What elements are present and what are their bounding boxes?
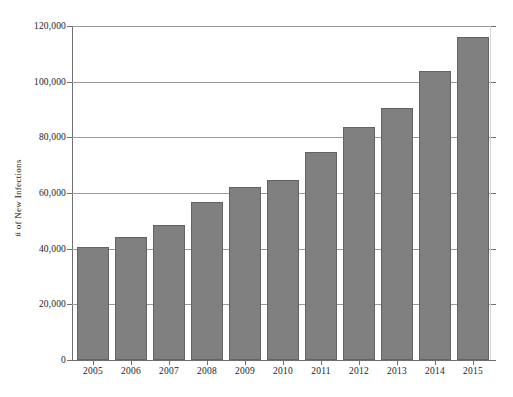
- x-axis-tick-label: 2011: [311, 366, 330, 376]
- bar-chart: # of New Infections 020,00040,00060,0008…: [0, 0, 513, 397]
- y-axis-tick-mark-right: [491, 249, 496, 250]
- y-axis-tick-mark: [67, 360, 72, 361]
- x-axis-tick-mark: [207, 361, 208, 365]
- x-axis-tick-mark: [397, 361, 398, 365]
- x-axis-tick-mark: [473, 361, 474, 365]
- y-axis-tick-mark-right: [491, 82, 496, 83]
- bar: [191, 202, 223, 360]
- y-axis-tick-mark-right: [491, 137, 496, 138]
- x-axis-tick-label: 2013: [387, 366, 407, 376]
- x-axis-tick-label: 2009: [235, 366, 255, 376]
- bar: [77, 247, 109, 360]
- y-axis-tick-mark: [67, 249, 72, 250]
- x-axis-tick-label: 2012: [349, 366, 369, 376]
- x-axis-tick-mark: [359, 361, 360, 365]
- x-axis-tick-label: 2008: [197, 366, 217, 376]
- y-axis-tick-labels: 020,00040,00060,00080,000100,000120,000: [0, 0, 66, 397]
- x-axis-tick-label: 2005: [83, 366, 103, 376]
- y-axis-tick-mark-right: [491, 304, 496, 305]
- y-axis-tick-label: 80,000: [39, 132, 66, 142]
- gridline: [72, 26, 490, 27]
- y-axis-tick-label: 0: [61, 355, 66, 365]
- bar: [267, 180, 299, 360]
- plot-area: [72, 26, 490, 360]
- y-axis-tick-mark: [67, 26, 72, 27]
- bar: [381, 108, 413, 360]
- x-axis-tick-mark: [131, 361, 132, 365]
- x-axis-tick-mark: [93, 361, 94, 365]
- x-axis-tick-label: 2014: [425, 366, 445, 376]
- y-axis-tick-mark-right: [491, 26, 496, 27]
- y-axis-tick-label: 40,000: [39, 244, 66, 254]
- x-axis-tick-mark: [321, 361, 322, 365]
- y-axis-tick-mark-right: [491, 360, 496, 361]
- bar: [153, 225, 185, 360]
- x-axis-tick-mark: [435, 361, 436, 365]
- y-axis-tick-mark-right: [491, 193, 496, 194]
- x-axis-tick-label: 2015: [463, 366, 483, 376]
- x-axis-tick-mark: [283, 361, 284, 365]
- y-axis-tick-label: 120,000: [34, 21, 66, 31]
- x-axis-tick-label: 2010: [273, 366, 293, 376]
- bar: [305, 152, 337, 360]
- bar: [229, 187, 261, 360]
- y-axis-tick-mark: [67, 193, 72, 194]
- y-axis-tick-mark: [67, 304, 72, 305]
- y-axis-tick-label: 60,000: [39, 188, 66, 198]
- y-axis-tick-mark: [67, 82, 72, 83]
- bar: [419, 71, 451, 360]
- x-axis-line: [72, 360, 491, 361]
- x-axis-tick-label: 2006: [121, 366, 141, 376]
- y-axis-tick-label: 100,000: [34, 77, 66, 87]
- x-axis-tick-label: 2007: [159, 366, 179, 376]
- x-axis-tick-mark: [245, 361, 246, 365]
- bar: [115, 237, 147, 360]
- y-axis-tick-mark: [67, 137, 72, 138]
- bar: [343, 127, 375, 360]
- bar: [457, 37, 489, 360]
- y-axis-tick-label: 20,000: [39, 299, 66, 309]
- x-axis-tick-mark: [169, 361, 170, 365]
